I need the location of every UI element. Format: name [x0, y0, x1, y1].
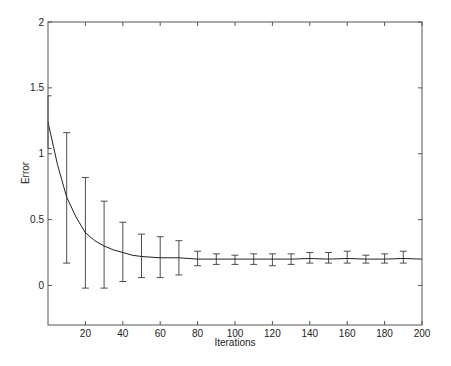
- error-bar: [269, 254, 276, 266]
- x-tick-label: 120: [264, 328, 281, 339]
- y-tick-label: 0.5: [30, 214, 44, 225]
- y-tick-label: 1.5: [30, 82, 44, 93]
- x-tick-label: 20: [80, 328, 92, 339]
- error-bar: [325, 253, 332, 264]
- x-tick-label: 60: [155, 328, 167, 339]
- error-bar: [232, 255, 239, 264]
- y-tick-label: 2: [38, 17, 44, 28]
- y-tick-label: 0: [38, 280, 44, 291]
- x-tick-label: 140: [301, 328, 318, 339]
- x-tick-label: 180: [376, 328, 393, 339]
- y-tick-labels: 00.511.52: [30, 17, 44, 291]
- error-bar: [400, 251, 407, 263]
- y-tick-label: 1: [38, 148, 44, 159]
- error-vs-iterations-chart: 20406080100120140160180200 00.511.52 Ite…: [0, 0, 451, 366]
- error-bar: [344, 251, 351, 263]
- x-tick-label: 40: [117, 328, 129, 339]
- x-tick-label: 80: [192, 328, 204, 339]
- error-bar: [48, 96, 52, 149]
- y-axis-label: Error: [20, 161, 31, 184]
- x-axis-label: Iterations: [214, 337, 255, 348]
- error-bar: [381, 254, 388, 263]
- x-tick-label: 160: [339, 328, 356, 339]
- x-tick-label: 200: [414, 328, 431, 339]
- error-bar: [306, 253, 313, 264]
